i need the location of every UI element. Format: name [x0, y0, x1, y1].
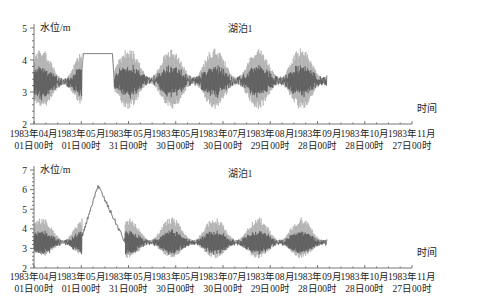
x-tick-label: 28日00时	[345, 140, 384, 151]
chart-canvas: 湖泊1 水位/m 时间 23451983年04月01日00时1983年05月01…	[0, 0, 478, 305]
series-layer	[34, 48, 327, 109]
x-tick-label: 28日00时	[298, 140, 337, 151]
x-tick-label: 01日00时	[15, 283, 54, 294]
x-tick-label: 30日00时	[204, 140, 243, 151]
x-tick-label: 1983年05月	[104, 128, 153, 139]
y-axis-label: 水位/m	[40, 163, 71, 175]
y-tick-label: 2	[22, 120, 27, 130]
chart-top: 湖泊1 水位/m 时间 23451983年04月01日00时1983年05月01…	[10, 21, 437, 151]
y-tick-label: 6	[22, 185, 27, 195]
x-tick-label: 1983年05月	[57, 271, 106, 282]
x-tick-label: 1983年11月	[388, 271, 436, 282]
y-tick-label: 4	[22, 224, 27, 234]
x-tick-label: 1983年08月	[246, 271, 295, 282]
x-tick-label: 28日00时	[345, 283, 384, 294]
x-tick-label: 1983年09月	[293, 271, 342, 282]
x-axis-label: 时间	[417, 246, 437, 258]
x-tick-label: 1983年05月	[57, 128, 106, 139]
y-axis-label: 水位/m	[40, 21, 71, 33]
x-tick-label: 1983年11月	[388, 128, 436, 139]
x-tick-label: 30日00时	[156, 140, 195, 151]
x-tick-label: 28日00时	[298, 283, 337, 294]
x-tick-label: 1983年04月	[10, 128, 59, 139]
x-tick-label: 1983年05月	[104, 271, 153, 282]
chart-bottom: 湖泊1 水位/m 时间 2345671983年04月01日00时1983年05月…	[10, 163, 437, 294]
x-axis-label: 时间	[417, 102, 437, 114]
x-tick-label: 29日00时	[251, 283, 290, 294]
y-tick-label: 3	[22, 244, 27, 254]
y-tick-label: 5	[22, 205, 27, 215]
x-tick-label: 31日00时	[109, 140, 148, 151]
x-tick-label: 01日00时	[62, 283, 101, 294]
x-tick-label: 30日00时	[204, 283, 243, 294]
x-tick-label: 1983年10月	[341, 271, 390, 282]
x-tick-label: 1983年08月	[246, 128, 295, 139]
x-tick-label: 01日00时	[15, 140, 54, 151]
x-tick-label: 27日00时	[393, 283, 432, 294]
x-tick-label: 30日00时	[156, 283, 195, 294]
x-tick-label: 1983年05月	[152, 271, 201, 282]
x-tick-label: 1983年09月	[293, 128, 342, 139]
x-tick-label: 1983年07月	[199, 271, 248, 282]
chart-title: 湖泊1	[228, 168, 253, 179]
x-tick-label: 01日00时	[62, 140, 101, 151]
y-tick-label: 5	[22, 24, 27, 34]
x-tick-label: 1983年05月	[152, 128, 201, 139]
x-tick-label: 27日00时	[393, 140, 432, 151]
x-tick-label: 31日00时	[109, 283, 148, 294]
x-tick-label: 29日00时	[251, 140, 290, 151]
series-layer	[34, 186, 327, 259]
x-tick-label: 1983年07月	[199, 128, 248, 139]
y-tick-label: 7	[22, 166, 27, 176]
chart-title: 湖泊1	[228, 23, 253, 34]
y-tick-label: 3	[22, 88, 27, 98]
x-tick-label: 1983年10月	[341, 128, 390, 139]
x-tick-label: 1983年04月	[10, 271, 59, 282]
y-tick-label: 4	[22, 56, 27, 66]
